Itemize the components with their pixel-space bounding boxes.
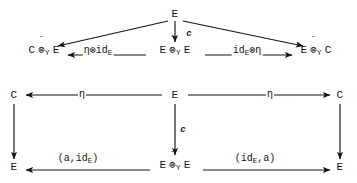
label-id-tensor-eta: idE⊗η xyxy=(232,46,263,58)
node-right-subscript: Y xyxy=(317,49,322,57)
node-mid-center-e: E xyxy=(172,90,179,101)
label-a-id: (a,idE) xyxy=(57,154,100,166)
node-bottom-mid-tensor: Eˆ⊗YE xyxy=(159,160,190,174)
label-eta-right: η xyxy=(266,90,274,100)
node-mid-e-tensor-e: Eˆ⊗YE xyxy=(159,45,190,59)
arrow-top-e-to-left xyxy=(58,21,168,46)
tensor-hat-icon: ˆ⊗ xyxy=(169,45,176,56)
commutative-diagram: E Cˆ⊗YE Eˆ⊗YE Eˆ⊗YC C E C E Eˆ⊗YE E c η⊗… xyxy=(0,0,357,183)
node-mid-right-c: C xyxy=(337,90,344,101)
label-id-a: (idE,a) xyxy=(234,154,277,166)
arrow-top-e-to-right xyxy=(183,21,303,46)
node-bottom-left-operand: E xyxy=(159,159,166,171)
node-bottom-subscript: Y xyxy=(176,164,181,172)
node-mid-subscript: Y xyxy=(176,49,181,57)
node-bottom-left-e-label: E xyxy=(11,161,18,173)
node-left-subscript: Y xyxy=(45,49,50,57)
tensor-icon: ⊗ xyxy=(310,44,317,56)
node-top-e: E xyxy=(172,9,179,20)
node-mid-left-c-label: C xyxy=(11,89,18,101)
label-c-mid: c xyxy=(179,125,186,135)
tensor-hat-icon: ˆ⊗ xyxy=(310,45,317,56)
label-eta-tensor-id: η⊗idE xyxy=(83,46,114,58)
tensor-hat-icon: ˆ⊗ xyxy=(38,45,45,56)
node-right-right-operand: C xyxy=(325,44,332,56)
node-mid-left-c: C xyxy=(11,90,18,101)
tensor-hat-icon: ˆ⊗ xyxy=(169,160,176,171)
node-left-right-operand: E xyxy=(53,44,60,56)
tensor-icon: ⊗ xyxy=(169,159,176,171)
node-bottom-right-e: E xyxy=(337,162,344,173)
node-left-c-tensor-e: Cˆ⊗YE xyxy=(28,45,59,59)
node-right-e-tensor-c: Eˆ⊗YC xyxy=(300,45,331,59)
tensor-icon: ⊗ xyxy=(38,44,45,56)
node-top-e-label: E xyxy=(172,8,179,20)
node-left-operand: C xyxy=(28,44,35,56)
node-mid-left-operand: E xyxy=(159,44,166,56)
tensor-icon: ⊗ xyxy=(169,44,176,56)
node-mid-center-e-label: E xyxy=(172,89,179,101)
node-mid-right-c-label: C xyxy=(337,89,344,101)
label-eta-left: η xyxy=(78,90,86,100)
label-c-top: c xyxy=(185,29,192,39)
node-bottom-right-operand: E xyxy=(184,159,191,171)
node-bottom-right-e-label: E xyxy=(337,161,344,173)
node-bottom-left-e: E xyxy=(11,162,18,173)
node-mid-right-operand: E xyxy=(184,44,191,56)
node-right-left-operand: E xyxy=(300,44,307,56)
